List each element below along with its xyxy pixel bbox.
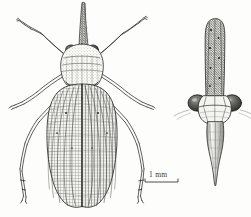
insect-illustration-figure: Insect scientific illustration plate bbox=[0, 0, 251, 217]
scale-bar-label: 1 mm bbox=[149, 171, 168, 179]
illustration-canvas bbox=[0, 0, 251, 217]
clypeus-band bbox=[198, 96, 231, 124]
median-head-process bbox=[205, 19, 225, 96]
